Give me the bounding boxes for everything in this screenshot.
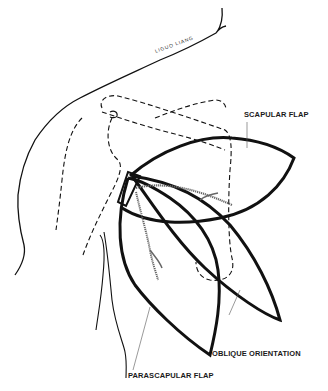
- flap-diagram-drawing: [0, 0, 328, 391]
- oblique-flap-outline: [132, 176, 280, 320]
- flank-line-outer: [96, 235, 104, 330]
- scapula-acromion-dashed: [155, 100, 226, 118]
- scapula-lateral-dashed: [83, 118, 120, 255]
- leader-parascapular-flap: [133, 307, 150, 370]
- scapula-spine-dashed: [102, 112, 225, 150]
- label-scapular-flap: SCAPULAR FLAP: [244, 110, 309, 119]
- scapula-medial-dashed: [56, 118, 82, 230]
- label-oblique-orientation: OBLIQUE ORIENTATION: [212, 349, 301, 358]
- label-parascapular-flap: PARASCAPULAR FLAP: [128, 371, 214, 380]
